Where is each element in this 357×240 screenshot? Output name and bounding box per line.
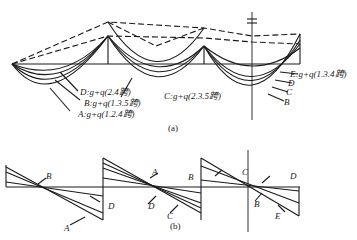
label-D-b1: D	[108, 202, 115, 211]
label-C-right: C	[286, 88, 292, 97]
caption-b: (b)	[170, 222, 181, 231]
label-A-a: A:g+q(1.2.4跨)	[78, 110, 135, 119]
label-B-b2: B	[188, 173, 194, 182]
label-E-a: E:g+q(1.3.4跨)	[290, 70, 347, 79]
label-C-a: C:g+q(2.3.5跨)	[164, 92, 221, 101]
label-C-b2: C	[167, 212, 173, 221]
label-D-a: D:g+q(2.4跨)	[80, 88, 131, 97]
moment-envelope-diagram	[0, 0, 357, 240]
label-B-b3: B	[254, 200, 260, 209]
caption-a: (a)	[168, 124, 178, 133]
label-E-b3: E	[275, 212, 281, 221]
label-D-b2: D	[148, 202, 155, 211]
label-C-b3: C	[242, 168, 248, 177]
label-A-b1: A	[64, 224, 70, 233]
label-B-b1: B	[46, 172, 52, 181]
label-D-b3: D	[290, 172, 297, 181]
label-B-a: B:g+q(1.3.5跨)	[84, 99, 141, 108]
label-A-b2: A	[152, 168, 158, 177]
label-B-right: B	[284, 98, 290, 107]
